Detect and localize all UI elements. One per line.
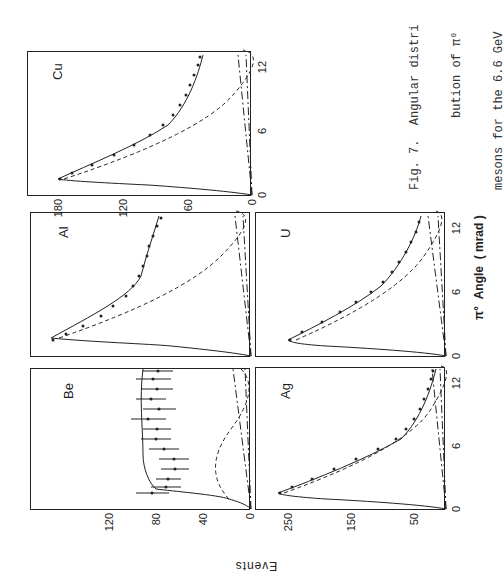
xtick: 0 — [450, 506, 462, 512]
panel-label-al: Al — [56, 226, 71, 238]
ytick: 0 — [244, 509, 256, 519]
ytick: 40 — [197, 509, 209, 525]
panel-label-u: U — [278, 229, 293, 238]
xtick: 6 — [450, 443, 462, 449]
ytick: 250 — [282, 509, 294, 531]
xtick: 0 — [450, 353, 462, 359]
caption-line: bution of π⁰ — [450, 0, 464, 190]
xtick: 12 — [450, 377, 462, 389]
caption-line: mesons for the 6.6 GeV — [492, 0, 504, 190]
figure-caption: Fig. 7. Angular distri bution of π⁰ meso… — [380, 0, 504, 190]
panel-al: Al — [30, 212, 250, 357]
panel-u: U 0 6 12 — [255, 212, 445, 357]
y-axis-label: Events — [235, 559, 278, 573]
ytick: 80 — [150, 509, 162, 525]
caption-line: Fig. 7. Angular distri — [408, 0, 422, 190]
panel-ag: Ag 250 150 50 0 6 12 — [255, 367, 445, 510]
panel-label-be: Be — [61, 383, 76, 399]
xtick: 12 — [256, 61, 268, 73]
ytick: 150 — [345, 509, 357, 531]
xtick: 12 — [450, 222, 462, 234]
ytick: 50 — [408, 509, 420, 525]
panel-cu: Cu 180 120 60 0 0 6 12 — [27, 51, 251, 196]
ytick: 60 — [182, 195, 194, 211]
panel-be: Be 120 80 40 0 — [30, 368, 250, 510]
ytick: 180 — [52, 195, 64, 217]
panel-label-ag: Ag — [278, 383, 293, 399]
ytick: 120 — [117, 195, 129, 217]
ytick: 120 — [103, 509, 115, 531]
x-axis-label: π° Angle ( mrad ) — [472, 215, 486, 320]
panel-label-cu: Cu — [50, 63, 65, 80]
xtick: 0 — [256, 192, 268, 198]
xtick: 6 — [256, 128, 268, 134]
figure-stage: Be 120 80 40 0 Al — [0, 0, 504, 580]
xtick: 6 — [450, 289, 462, 295]
